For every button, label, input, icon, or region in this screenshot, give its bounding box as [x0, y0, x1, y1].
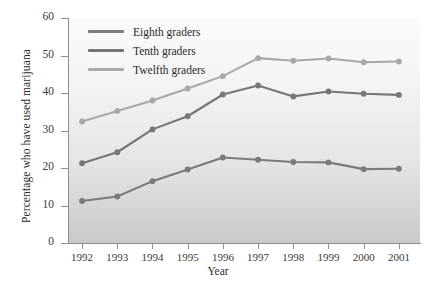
legend-swatch-icon	[88, 49, 124, 53]
y-tick-60	[61, 18, 68, 19]
x-tick-label-1998: 1998	[273, 251, 313, 263]
y-tick-0	[61, 243, 68, 244]
x-tick-label-1994: 1994	[132, 251, 172, 263]
data-point	[220, 92, 226, 98]
x-tick-2000	[364, 243, 365, 249]
x-tick-label-1993: 1993	[97, 251, 137, 263]
y-tick-label-0: 0	[28, 235, 54, 247]
x-axis-title: Year	[0, 265, 436, 277]
data-point	[220, 73, 226, 79]
y-tick-20	[61, 168, 68, 169]
legend-swatch-icon	[88, 68, 124, 72]
data-point	[396, 92, 402, 98]
data-point	[220, 155, 226, 161]
data-point	[79, 198, 85, 204]
x-tick-label-1997: 1997	[238, 251, 278, 263]
data-point	[290, 159, 296, 165]
series-eighth-graders	[79, 155, 402, 204]
y-axis-title: Percentage who have used marijuana	[20, 36, 32, 236]
x-tick-label-1995: 1995	[168, 251, 208, 263]
x-tick-1997	[258, 243, 259, 249]
data-point	[290, 93, 296, 99]
y-tick-50	[61, 56, 68, 57]
data-point	[396, 166, 402, 172]
data-point	[361, 166, 367, 172]
data-point	[290, 58, 296, 64]
x-tick-label-2001: 2001	[379, 251, 419, 263]
data-point	[255, 157, 261, 163]
x-tick-label-1999: 1999	[308, 251, 348, 263]
legend-item-tenth-graders: Tenth graders	[88, 43, 205, 58]
data-point	[185, 167, 191, 173]
x-tick-1994	[152, 243, 153, 249]
x-tick-label-2000: 2000	[344, 251, 384, 263]
data-point	[79, 160, 85, 166]
data-point	[114, 108, 120, 114]
x-tick-label-1992: 1992	[62, 251, 102, 263]
data-point	[150, 126, 156, 132]
y-tick-10	[61, 206, 68, 207]
data-point	[79, 119, 85, 125]
data-point	[114, 149, 120, 155]
x-tick-1996	[223, 243, 224, 249]
data-point	[361, 91, 367, 97]
data-point	[255, 55, 261, 61]
data-point	[396, 59, 402, 65]
y-tick-30	[61, 131, 68, 132]
data-point	[361, 59, 367, 65]
data-point	[255, 83, 261, 89]
legend-item-eighth-graders: Eighth graders	[88, 24, 205, 39]
data-point	[326, 89, 332, 95]
x-tick-2001	[399, 243, 400, 249]
legend-item-twelfth-graders: Twelfth graders	[88, 62, 205, 77]
x-tick-1998	[293, 243, 294, 249]
data-point	[114, 194, 120, 200]
legend-label: Eighth graders	[133, 26, 200, 38]
y-tick-label-60: 60	[28, 10, 54, 22]
x-axis-line	[68, 243, 421, 244]
x-tick-label-1996: 1996	[203, 251, 243, 263]
data-point	[326, 159, 332, 165]
legend-label: Twelfth graders	[133, 64, 205, 76]
x-tick-1993	[117, 243, 118, 249]
data-point	[150, 98, 156, 104]
x-tick-1999	[328, 243, 329, 249]
data-point	[185, 113, 191, 119]
x-tick-1995	[188, 243, 189, 249]
series-tenth-graders	[79, 83, 402, 166]
y-tick-40	[61, 93, 68, 94]
legend-swatch-icon	[88, 30, 124, 34]
data-point	[185, 86, 191, 92]
legend-label: Tenth graders	[133, 45, 196, 57]
chart-legend: Eighth gradersTenth gradersTwelfth grade…	[88, 24, 205, 77]
data-point	[326, 56, 332, 62]
marijuana-use-line-chart: 0102030405060 19921993199419951996199719…	[0, 0, 436, 283]
data-point	[150, 178, 156, 184]
x-tick-1992	[82, 243, 83, 249]
